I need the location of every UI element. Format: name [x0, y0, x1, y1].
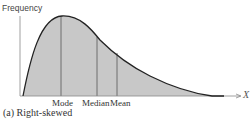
median-label: Median: [82, 98, 110, 108]
x-axis-label: X: [243, 89, 249, 100]
figure-caption: (a) Right-skewed: [3, 107, 72, 118]
mean-label: Mean: [110, 98, 131, 108]
y-axis-label: Frequency: [2, 3, 42, 13]
